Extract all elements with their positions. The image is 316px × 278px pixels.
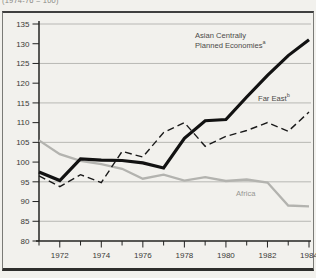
line-africa [39, 140, 309, 206]
chart-plot: 1351301251201151101051009590858019721974… [0, 0, 316, 278]
chart-page: (1974-76 = 100) 135130125120115110105100… [0, 0, 316, 278]
series-label-asian-cpe: Asian Centrally Planned Economiesa [195, 31, 266, 51]
svg-text:1984: 1984 [300, 251, 316, 260]
svg-text:100: 100 [16, 158, 30, 167]
svg-text:110: 110 [17, 118, 30, 127]
footnote-marker-b: b [287, 92, 290, 98]
series-label-asian-line1: Asian Centrally [195, 31, 246, 40]
svg-text:135: 135 [16, 20, 30, 29]
series-label-far-east: Far Eastb [258, 94, 290, 104]
svg-text:125: 125 [16, 59, 30, 68]
series-label-africa: Africa [236, 189, 255, 199]
svg-text:1972: 1972 [51, 251, 69, 260]
svg-text:1974: 1974 [92, 251, 110, 260]
footnote-marker-a: a [263, 39, 266, 45]
svg-text:105: 105 [16, 138, 30, 147]
series-label-africa-text: Africa [236, 189, 255, 198]
svg-text:115: 115 [17, 99, 30, 108]
svg-text:85: 85 [21, 217, 30, 226]
svg-text:130: 130 [16, 40, 30, 49]
svg-text:1982: 1982 [259, 251, 277, 260]
series-label-asian-line2: Planned Economies [195, 41, 263, 50]
svg-text:1980: 1980 [217, 251, 235, 260]
series-label-far-east-text: Far East [258, 94, 287, 103]
svg-text:80: 80 [21, 237, 30, 246]
svg-text:120: 120 [16, 79, 30, 88]
svg-text:90: 90 [21, 197, 30, 206]
svg-text:1978: 1978 [175, 251, 193, 260]
line-far-east [39, 112, 309, 187]
line-asian-centrally-planned-economies [39, 40, 309, 181]
svg-text:1976: 1976 [134, 251, 152, 260]
svg-text:95: 95 [21, 178, 30, 187]
